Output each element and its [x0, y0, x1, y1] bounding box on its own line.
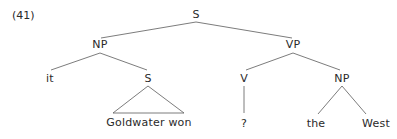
edge-np-the	[318, 86, 342, 114]
node-s-embedded: S	[144, 73, 151, 85]
triangle-s-abbreviation	[113, 86, 184, 113]
edge-s-vp	[196, 22, 292, 38]
leaf-question-mark: ?	[241, 118, 247, 130]
edge-np-it	[51, 53, 100, 70]
node-np-object: NP	[334, 73, 349, 85]
edge-np-s	[100, 53, 147, 70]
edge-np-west	[342, 86, 366, 114]
node-np-subject: NP	[92, 39, 107, 51]
edge-vp-v	[246, 53, 293, 70]
leaf-it: it	[46, 73, 54, 85]
leaf-west: West	[362, 118, 390, 130]
leaf-the: the	[307, 118, 326, 130]
edge-s-np	[101, 22, 196, 38]
node-s-root: S	[192, 9, 199, 21]
edge-vp-np	[293, 53, 340, 70]
node-vp: VP	[286, 39, 301, 51]
node-v: V	[240, 73, 248, 85]
leaf-goldwater-won: Goldwater won	[106, 117, 191, 129]
example-number: (41)	[12, 9, 35, 22]
